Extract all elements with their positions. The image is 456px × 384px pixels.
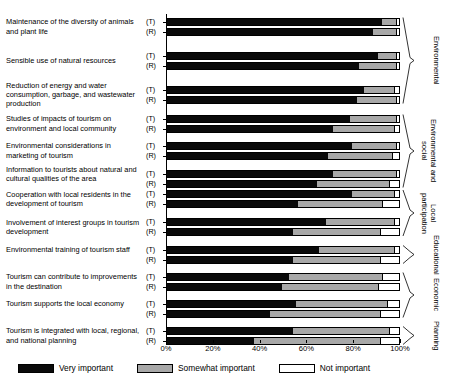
segment-not-important xyxy=(382,274,400,280)
segment-not-important xyxy=(396,97,400,103)
stacked-bar xyxy=(166,28,400,36)
x-axis-tick xyxy=(166,340,167,343)
segment-very-important xyxy=(167,97,357,103)
subgroup-label-r: (R) xyxy=(146,151,164,160)
segment-somewhat-important xyxy=(373,29,396,35)
subgroup-label-r: (R) xyxy=(146,61,164,70)
segment-somewhat-important xyxy=(352,191,394,197)
legend-item: Not important xyxy=(279,363,370,373)
x-axis-tick xyxy=(400,340,401,343)
stacked-bar xyxy=(166,327,400,335)
segment-somewhat-important xyxy=(382,19,396,25)
stacked-bar xyxy=(166,52,400,60)
stacked-bar xyxy=(166,170,400,178)
subgroup-label-t: (T) xyxy=(146,17,164,26)
segment-not-important xyxy=(394,191,400,197)
segment-very-important xyxy=(167,29,373,35)
group-label: Local participation xyxy=(420,190,438,236)
segment-somewhat-important xyxy=(328,153,391,159)
category-label: Tourism is integrated with local, region… xyxy=(6,326,144,344)
category-label: Environmental considerations in marketin… xyxy=(6,141,144,159)
subgroup-label-t: (T) xyxy=(146,217,164,226)
chart-root: Maintenance of the diversity of animals … xyxy=(0,0,456,384)
segment-not-important xyxy=(392,153,400,159)
segment-not-important xyxy=(396,116,400,122)
stacked-bar xyxy=(166,62,400,70)
segment-not-important xyxy=(378,284,400,290)
stacked-bar xyxy=(166,152,400,160)
legend-label: Not important xyxy=(320,363,370,373)
segment-somewhat-important xyxy=(296,301,387,307)
chart-legend: Very importantSomewhat importantNot impo… xyxy=(18,361,438,375)
category-label: Environmental training of tourism staff xyxy=(6,245,144,254)
category-label: Sensible use of natural resources xyxy=(6,56,144,65)
segment-not-important xyxy=(394,87,400,93)
group-label: Planning xyxy=(432,327,441,345)
subgroup-label-r: (R) xyxy=(146,124,164,133)
x-axis-tick xyxy=(213,340,214,343)
segment-not-important xyxy=(396,143,400,149)
x-axis-tick xyxy=(353,340,354,343)
segment-somewhat-important xyxy=(282,284,378,290)
stacked-bar xyxy=(166,86,400,94)
segment-very-important xyxy=(167,219,326,225)
legend-swatch-very xyxy=(18,364,54,373)
x-axis-tick-label: 40% xyxy=(245,344,275,354)
x-axis-tick-label: 60% xyxy=(291,344,321,354)
x-axis-tick-label: 20% xyxy=(198,344,228,354)
segment-very-important xyxy=(167,328,293,334)
subgroup-label-t: (T) xyxy=(146,272,164,281)
segment-somewhat-important xyxy=(326,219,394,225)
x-axis-tick xyxy=(306,340,307,343)
category-label: Reduction of energy and water consumptio… xyxy=(6,81,144,109)
subgroup-label-r: (R) xyxy=(146,282,164,291)
segment-not-important xyxy=(380,229,400,235)
segment-somewhat-important xyxy=(357,97,397,103)
segment-very-important xyxy=(167,191,352,197)
segment-not-important xyxy=(394,126,400,132)
segment-not-important xyxy=(382,201,400,207)
segment-not-important xyxy=(394,219,400,225)
x-axis-tick-label: 100% xyxy=(385,344,415,354)
segment-somewhat-important xyxy=(254,338,380,344)
category-label: Tourism supports the local economy xyxy=(6,299,144,308)
stacked-bar xyxy=(166,283,400,291)
segment-very-important xyxy=(167,171,333,177)
subgroup-label-t: (T) xyxy=(146,141,164,150)
category-label: Cooperation with local residents in the … xyxy=(6,190,144,208)
group-label: Educational xyxy=(432,246,441,264)
subgroup-label-t: (T) xyxy=(146,85,164,94)
category-label: Tourism can contribute to improvements i… xyxy=(6,272,144,290)
stacked-bar xyxy=(166,96,400,104)
stacked-bar xyxy=(166,18,400,26)
stacked-bar xyxy=(166,218,400,226)
segment-not-important xyxy=(396,171,400,177)
segment-very-important xyxy=(167,229,293,235)
segment-somewhat-important xyxy=(350,116,397,122)
category-label: Information to tourists about natural an… xyxy=(6,165,144,183)
segment-somewhat-important xyxy=(319,247,394,253)
segment-not-important xyxy=(394,247,400,253)
legend-label: Very important xyxy=(59,363,113,373)
category-label: Maintenance of the diversity of animals … xyxy=(6,17,144,35)
segment-not-important xyxy=(380,338,400,344)
stacked-bar xyxy=(166,228,400,236)
segment-somewhat-important xyxy=(364,87,394,93)
stacked-bar xyxy=(166,142,400,150)
segment-not-important xyxy=(396,29,400,35)
segment-very-important xyxy=(167,87,364,93)
segment-somewhat-important xyxy=(270,311,380,317)
segment-somewhat-important xyxy=(293,229,380,235)
segment-not-important xyxy=(387,301,400,307)
segment-not-important xyxy=(396,63,400,69)
stacked-bar xyxy=(166,115,400,123)
subgroup-label-r: (R) xyxy=(146,227,164,236)
legend-item: Somewhat important xyxy=(137,363,255,373)
category-label: Involvement of interest groups in touris… xyxy=(6,218,144,236)
stacked-bar xyxy=(166,180,400,188)
segment-very-important xyxy=(167,284,282,290)
subgroup-label-r: (R) xyxy=(146,199,164,208)
x-axis-tick-label: 0% xyxy=(151,344,181,354)
stacked-bar xyxy=(166,256,400,264)
segment-somewhat-important xyxy=(359,63,396,69)
